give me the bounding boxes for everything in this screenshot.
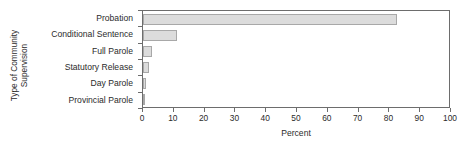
category-label-day-parole: Day Parole [6,75,138,91]
y-axis-tick [138,75,143,76]
bar-chart: Type of Community Supervision Probation … [0,0,473,152]
bar-row [143,91,449,107]
x-axis-tick [296,108,297,112]
category-label-full-parole: Full Parole [6,43,138,59]
bar-row [143,59,449,75]
x-axis-tick [419,108,420,112]
bar-series [143,11,449,107]
x-axis-tick-label: 30 [230,113,239,123]
bar-row [143,27,449,43]
y-axis-tick [138,92,143,93]
y-axis-ticks [142,10,147,108]
x-axis-tick-labels: 0102030405060708090100 [142,113,450,125]
plot-area [142,10,450,108]
x-axis-tick [204,108,205,112]
bar-probation [143,14,397,25]
x-axis-tick-label: 60 [322,113,331,123]
x-axis-tick [142,108,143,112]
x-axis-tick-label: 80 [384,113,393,123]
x-axis-tick-label: 10 [168,113,177,123]
x-axis-tick-label: 100 [443,113,457,123]
x-axis-tick-label: 50 [291,113,300,123]
x-axis-tick [358,108,359,112]
x-axis-label: Percent [142,128,450,138]
x-axis-tick-label: 70 [353,113,362,123]
y-axis-tick [138,10,143,11]
y-axis-tick [138,26,143,27]
category-label-provincial-parole: Provincial Parole [6,92,138,108]
category-axis-labels: Probation Conditional Sentence Full Paro… [6,10,138,108]
y-axis-tick [138,43,143,44]
x-axis-tick [265,108,266,112]
x-axis-tick [450,108,451,112]
x-axis-tick [388,108,389,112]
x-axis-tick-label: 20 [199,113,208,123]
category-label-probation: Probation [6,10,138,26]
x-axis-tick [327,108,328,112]
bar-conditional-sentence [143,30,177,41]
y-axis-tick [138,59,143,60]
x-axis-tick [234,108,235,112]
bar-row [143,75,449,91]
category-label-conditional-sentence: Conditional Sentence [6,26,138,42]
category-label-statutory-release: Statutory Release [6,59,138,75]
bar-row [143,11,449,27]
x-axis-tick-label: 0 [140,113,145,123]
x-axis-tick [173,108,174,112]
x-axis-tick-label: 90 [415,113,424,123]
bar-row [143,43,449,59]
x-axis-tick-label: 40 [261,113,270,123]
